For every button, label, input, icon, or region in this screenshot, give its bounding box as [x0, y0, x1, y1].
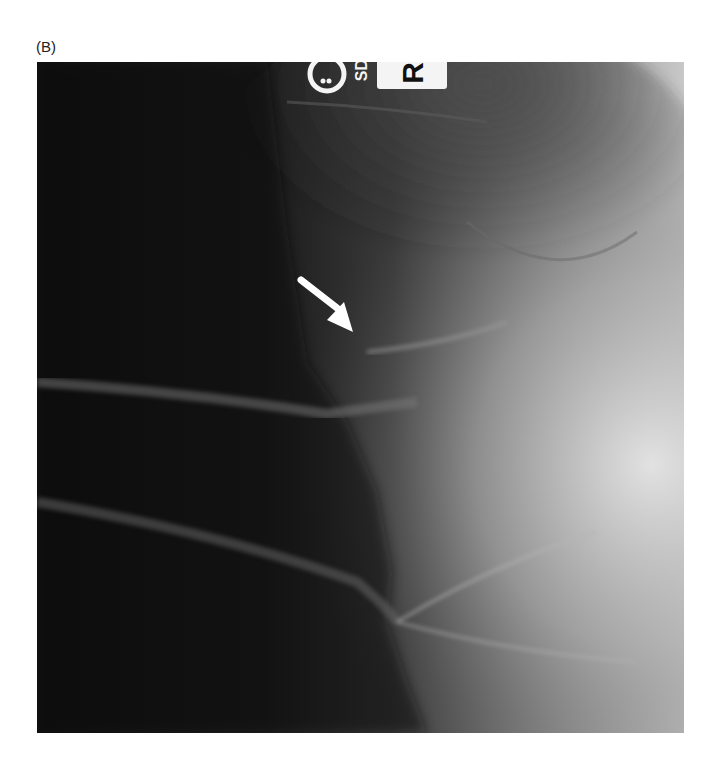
panel-label: (B): [36, 38, 56, 55]
tech-marker-text: SD: [353, 62, 370, 81]
radiograph-image: SD R: [37, 62, 684, 733]
side-marker-text: R: [396, 62, 429, 84]
